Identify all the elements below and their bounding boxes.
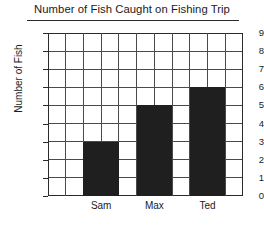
y-axis-title: Number of Fish bbox=[13, 29, 24, 129]
plot-area bbox=[48, 33, 243, 196]
bar-sam bbox=[83, 142, 118, 196]
y-tick-mark bbox=[43, 196, 48, 197]
x-tick-label: Max bbox=[137, 200, 172, 211]
x-tick-label: Sam bbox=[83, 200, 118, 211]
chart-title: Number of Fish Caught on Fishing Trip bbox=[0, 3, 264, 15]
bar-chart-figure: Number of Fish Caught on Fishing Trip Nu… bbox=[0, 0, 264, 233]
chart-title-underline bbox=[27, 20, 239, 21]
x-tick-label: Ted bbox=[190, 200, 225, 211]
bar-max bbox=[137, 105, 172, 196]
bar-ted bbox=[190, 87, 225, 196]
